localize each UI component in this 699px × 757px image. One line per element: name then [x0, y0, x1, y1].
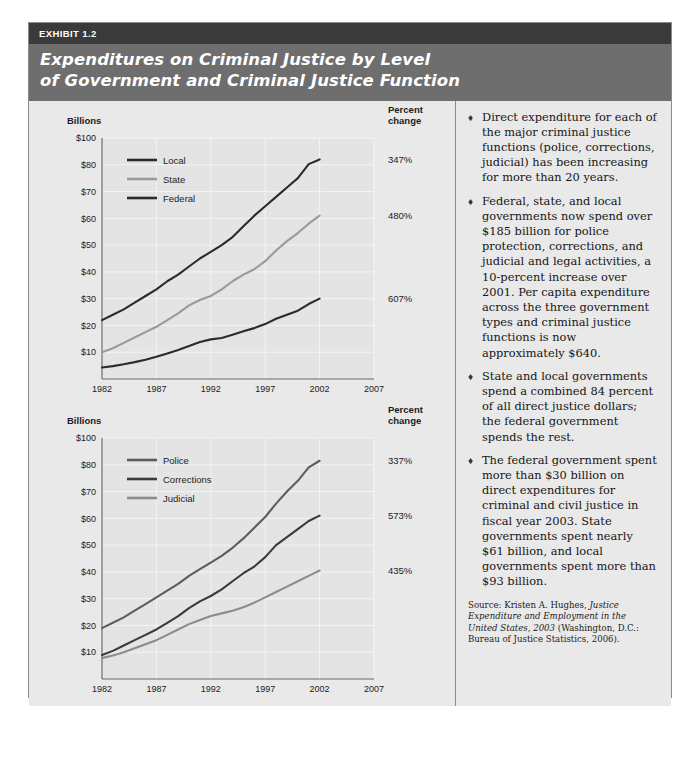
exhibit-title-line-1: Expenditures on Criminal Justice by Leve…	[40, 50, 659, 71]
y-axis-tick-label: $10	[81, 647, 96, 657]
y-axis-tick-label: $70	[81, 486, 96, 496]
y-axis-tick-label: $30	[81, 293, 96, 303]
x-axis-tick-label: 1992	[201, 684, 221, 694]
x-axis-tick-label: 2002	[310, 684, 330, 694]
bullet-text: State and local governments spend a comb…	[482, 369, 657, 445]
y-axis-unit-label: Billions	[67, 415, 101, 426]
series-percent-change-label: 435%	[388, 565, 413, 576]
bullet-text: The federal government spent more than $…	[482, 453, 657, 590]
series-percent-change-label: 607%	[388, 293, 413, 304]
exhibit-body: Billions$100$80$70$60$50$40$30$20$101982…	[29, 101, 671, 706]
exhibit-panel: EXHIBIT 1.2 Expenditures on Criminal Jus…	[28, 22, 672, 698]
series-percent-change-label: 573%	[388, 510, 413, 521]
commentary-column: ♦Direct expenditure for each of the majo…	[456, 101, 671, 706]
x-axis-tick-label: 1982	[92, 684, 112, 694]
chart-by-function: Billions$100$80$70$60$50$40$30$20$101982…	[29, 401, 456, 701]
x-axis-tick-label: 1997	[255, 684, 275, 694]
y-axis-tick-label: $10	[81, 347, 96, 357]
chart-by-level-of-government-svg: Billions$100$80$70$60$50$40$30$20$101982…	[29, 101, 456, 401]
y-axis-tick-label: $20	[81, 620, 96, 630]
percent-change-header: Percent	[388, 404, 424, 415]
chart-by-level-of-government: Billions$100$80$70$60$50$40$30$20$101982…	[29, 101, 456, 401]
exhibit-tag: EXHIBIT 1.2	[29, 23, 671, 44]
plot-area	[102, 438, 374, 679]
x-axis-tick-label: 1992	[201, 384, 221, 394]
bullet-item: ♦Federal, state, and local governments n…	[468, 194, 657, 361]
series-percent-change-label: 337%	[388, 455, 413, 466]
y-axis-tick-label: $40	[81, 267, 96, 277]
x-axis-tick-label: 1987	[146, 384, 166, 394]
y-axis-tick-label: $50	[81, 540, 96, 550]
source-prefix: Source: Kristen A. Hughes,	[468, 600, 589, 610]
bullet-list: ♦Direct expenditure for each of the majo…	[468, 110, 657, 590]
exhibit-title-line-2: of Government and Criminal Justice Funct…	[40, 71, 659, 92]
x-axis-tick-label: 1987	[146, 684, 166, 694]
x-axis-tick-label: 1997	[255, 384, 275, 394]
bullet-item: ♦The federal government spent more than …	[468, 453, 657, 590]
x-axis-tick-label: 2007	[364, 384, 384, 394]
percent-change-header: change	[388, 415, 421, 426]
percent-change-header: Percent	[388, 104, 424, 115]
source-citation: Source: Kristen A. Hughes, Justice Expen…	[468, 600, 657, 646]
bullet-item: ♦Direct expenditure for each of the majo…	[468, 110, 657, 186]
y-axis-tick-label: $70	[81, 186, 96, 196]
legend-label: Federal	[163, 192, 195, 203]
percent-change-header: change	[388, 115, 421, 126]
y-axis-tick-label: $80	[81, 160, 96, 170]
charts-column: Billions$100$80$70$60$50$40$30$20$101982…	[29, 101, 456, 706]
y-axis-tick-label: $60	[81, 513, 96, 523]
x-axis-tick-label: 2002	[310, 384, 330, 394]
y-axis-tick-label: $50	[81, 240, 96, 250]
diamond-bullet-icon: ♦	[468, 369, 482, 445]
diamond-bullet-icon: ♦	[468, 194, 482, 361]
series-percent-change-label: 480%	[388, 210, 413, 221]
y-axis-unit-label: Billions	[67, 115, 101, 126]
bullet-item: ♦State and local governments spend a com…	[468, 369, 657, 445]
y-axis-tick-label: $100	[76, 133, 96, 143]
legend-label: Judicial	[163, 492, 195, 503]
chart-by-function-svg: Billions$100$80$70$60$50$40$30$20$101982…	[29, 401, 456, 701]
plot-area	[102, 138, 374, 379]
y-axis-tick-label: $100	[76, 433, 96, 443]
y-axis-tick-label: $40	[81, 567, 96, 577]
bullet-text: Federal, state, and local governments no…	[482, 194, 657, 361]
y-axis-tick-label: $80	[81, 460, 96, 470]
diamond-bullet-icon: ♦	[468, 110, 482, 186]
legend-label: Corrections	[163, 473, 212, 484]
legend-label: Police	[163, 454, 189, 465]
x-axis-tick-label: 1982	[92, 384, 112, 394]
bullet-text: Direct expenditure for each of the major…	[482, 110, 657, 186]
y-axis-tick-label: $60	[81, 213, 96, 223]
x-axis-title: Year	[228, 698, 248, 701]
diamond-bullet-icon: ♦	[468, 453, 482, 590]
exhibit-title: Expenditures on Criminal Justice by Leve…	[29, 44, 671, 101]
x-axis-tick-label: 2007	[364, 684, 384, 694]
series-percent-change-label: 347%	[388, 153, 413, 164]
legend-label: Local	[163, 154, 186, 165]
y-axis-tick-label: $30	[81, 593, 96, 603]
legend-label: State	[163, 173, 185, 184]
y-axis-tick-label: $20	[81, 320, 96, 330]
